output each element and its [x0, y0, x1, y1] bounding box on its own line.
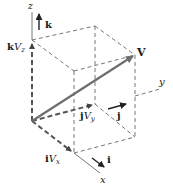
x-axis-label: x: [100, 174, 106, 185]
unit-i-label: i: [107, 154, 111, 165]
x-component-label: iVx: [45, 153, 60, 166]
diagram-canvas: z y x k j i V kVz jVy iVx: [0, 0, 173, 187]
vector-components-diagram: z y x k j i V kVz jVy iVx: [0, 0, 173, 187]
unit-vector-j: [108, 104, 126, 109]
x-component-vector: [32, 121, 71, 151]
vector-v-label: V: [136, 46, 146, 59]
x-axis: [74, 153, 100, 173]
z-component-label: kVz: [7, 41, 25, 54]
component-vectors: [32, 44, 92, 151]
unit-k-label: k: [45, 19, 53, 30]
unit-vector-i: [92, 158, 104, 167]
y-axis-label: y: [158, 76, 165, 87]
y-component-label: jVy: [79, 110, 96, 123]
unit-j-label: j: [116, 110, 121, 121]
z-axis-label: z: [27, 1, 33, 11]
